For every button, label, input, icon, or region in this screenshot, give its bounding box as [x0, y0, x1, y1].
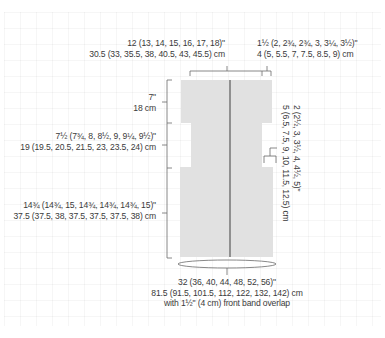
underarm-bindoff-metric: 5 (6.5, 7.5, 9, 10, 11.5, 12.5) cm — [281, 105, 292, 222]
underarm-bindoff-imperial: 2 (2½, 3, 3½, 4, 4½, 5)" — [292, 105, 303, 222]
upper-width-imperial: 12 (13, 14, 15, 16, 17, 18)" — [89, 38, 225, 49]
body-length-metric: 37.5 (37.5, 38, 37.5, 37.5, 37.5, 38) cm — [13, 211, 156, 222]
circumference-indicator — [178, 260, 276, 275]
yoke-height-metric: 18 cm — [133, 103, 156, 114]
front-band-metric: 4 (5, 5.5, 7, 7.5, 8.5, 9) cm — [257, 49, 357, 60]
yoke-height-label: 7" 18 cm — [133, 92, 156, 113]
upper-width-label: 12 (13, 14, 15, 16, 17, 18)" 30.5 (33, 3… — [89, 38, 225, 59]
upper-width-metric: 30.5 (33, 35.5, 38, 40.5, 43, 45.5) cm — [89, 49, 225, 60]
underarm-bindoff-label: 2 (2½, 3, 3½, 4, 4½, 5)" 5 (6.5, 7.5, 9,… — [281, 105, 302, 222]
armhole-depth-imperial: 7½ (7¾, 8, 8½, 9, 9¼, 9½)" — [20, 131, 156, 142]
circumference-imperial: 32 (36, 40, 44, 48, 52, 56)" — [127, 277, 327, 288]
circumference-label: 32 (36, 40, 44, 48, 52, 56)" 81.5 (91.5,… — [127, 277, 327, 309]
armhole-depth-metric: 19 (19.5, 20.5, 21.5, 23, 23.5, 24) cm — [20, 142, 156, 153]
left-measure-bracket — [162, 80, 172, 258]
armhole-depth-label: 7½ (7¾, 8, 8½, 9, 9¼, 9½)" 19 (19.5, 20.… — [20, 131, 156, 152]
circumference-metric: 81.5 (91.5, 101.5, 112, 122, 132, 142) c… — [127, 288, 327, 299]
body-length-label: 14¾ (14¾, 15, 14¾, 14¾, 14¾, 15)" 37.5 (… — [13, 200, 156, 221]
circumference-note: with 1½" (4 cm) front band overlap — [127, 298, 327, 309]
body-length-imperial: 14¾ (14¾, 15, 14¾, 14¾, 14¾, 15)" — [13, 200, 156, 211]
front-band-imperial: 1½ (2, 2¾, 2¾, 3, 3¼, 3½)" — [257, 38, 357, 49]
front-band-label: 1½ (2, 2¾, 2¾, 3, 3¼, 3½)" 4 (5, 5.5, 7,… — [257, 38, 357, 59]
top-measure-bracket — [190, 66, 271, 76]
underarm-measure-bracket — [264, 148, 277, 163]
body-shape — [180, 80, 273, 257]
yoke-height-imperial: 7" — [133, 92, 156, 103]
